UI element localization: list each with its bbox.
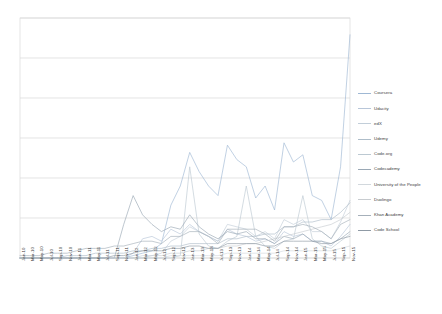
- legend-item-label: Khan Academy: [374, 213, 404, 217]
- legend-item[interactable]: Udacity: [358, 101, 442, 116]
- legend-item[interactable]: edX: [358, 116, 442, 131]
- legend-color-swatch: [358, 199, 371, 200]
- series-line-code-school: [20, 236, 350, 258]
- series-line-khan-academy: [20, 220, 350, 256]
- legend-item[interactable]: University of the People: [358, 177, 442, 192]
- legend-item-label: University of the People: [374, 183, 421, 187]
- legend-item[interactable]: Khan Academy: [358, 208, 442, 223]
- legend-item-label: edX: [374, 122, 382, 126]
- legend-color-swatch: [358, 169, 371, 170]
- series-line-coursera: [20, 35, 350, 258]
- chart-legend: CourseraUdacityedXUdemyCode.orgCodecadem…: [358, 86, 442, 238]
- line-chart: CourseraUdacityedXUdemyCode.orgCodecadem…: [0, 0, 442, 314]
- legend-item[interactable]: Code School: [358, 223, 442, 238]
- legend-item[interactable]: Coursera: [358, 86, 442, 101]
- legend-color-swatch: [358, 215, 371, 216]
- legend-item[interactable]: Codecademy: [358, 162, 442, 177]
- legend-item[interactable]: Duolingo: [358, 192, 442, 207]
- legend-item-label: Duolingo: [374, 198, 391, 202]
- legend-item-label: Code.org: [374, 152, 392, 156]
- legend-item-label: Udacity: [374, 107, 389, 111]
- legend-color-swatch: [358, 230, 371, 231]
- legend-item-label: Udemy: [374, 137, 388, 141]
- legend-color-swatch: [358, 154, 371, 155]
- legend-item-label: Code School: [374, 228, 399, 232]
- legend-item[interactable]: Code.org: [358, 147, 442, 162]
- series-line-code-org: [20, 167, 350, 258]
- legend-item[interactable]: Udemy: [358, 132, 442, 147]
- legend-color-swatch: [358, 139, 371, 140]
- legend-color-swatch: [358, 93, 371, 94]
- legend-color-swatch: [358, 108, 371, 109]
- legend-item-label: Codecademy: [374, 167, 400, 171]
- legend-color-swatch: [358, 123, 371, 124]
- legend-item-label: Coursera: [374, 91, 392, 95]
- legend-color-swatch: [358, 184, 371, 185]
